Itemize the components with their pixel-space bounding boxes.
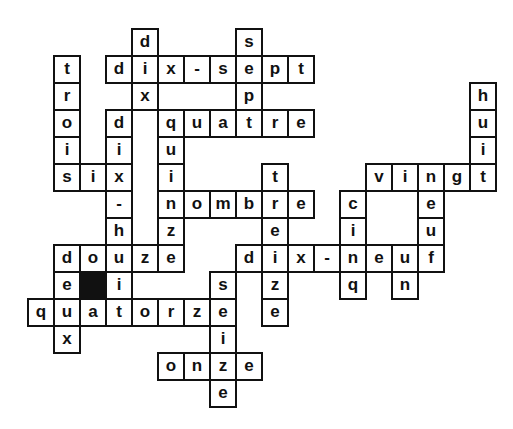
crossword-cell[interactable]: a xyxy=(209,109,237,138)
crossword-cell[interactable]: x xyxy=(131,82,159,111)
crossword-cell[interactable]: r xyxy=(261,190,289,219)
crossword-cell[interactable]: e xyxy=(53,271,81,300)
crossword-cell[interactable]: t xyxy=(287,55,315,84)
crossword-cell[interactable]: g xyxy=(443,163,471,192)
crossword-cell[interactable]: o xyxy=(157,352,185,381)
crossword-cell[interactable]: e xyxy=(209,379,237,408)
cell-letter: n xyxy=(400,276,410,293)
crossword-cell[interactable]: i xyxy=(157,163,185,192)
crossword-cell[interactable]: x xyxy=(157,55,185,84)
crossword-cell[interactable]: n xyxy=(157,190,185,219)
crossword-cell[interactable]: n xyxy=(417,163,445,192)
crossword-cell[interactable]: a xyxy=(79,298,107,327)
crossword-cell[interactable]: v xyxy=(365,163,393,192)
crossword-cell[interactable]: i xyxy=(209,325,237,354)
cell-letter: s xyxy=(218,276,227,293)
crossword-cell[interactable]: i xyxy=(131,55,159,84)
crossword-cell[interactable]: d xyxy=(105,109,133,138)
crossword-cell[interactable]: d xyxy=(105,55,133,84)
crossword-cell[interactable]: e xyxy=(287,190,315,219)
crossword-cell[interactable]: i xyxy=(105,271,133,300)
cell-letter: i xyxy=(117,276,122,293)
crossword-cell[interactable]: o xyxy=(53,109,81,138)
crossword-cell[interactable]: q xyxy=(27,298,55,327)
crossword-cell[interactable]: z xyxy=(261,271,289,300)
crossword-cell[interactable]: f xyxy=(417,244,445,273)
crossword-cell[interactable]: u xyxy=(105,244,133,273)
cell-letter: e xyxy=(166,249,175,266)
crossword-cell[interactable]: e xyxy=(157,244,185,273)
crossword-cell[interactable]: u xyxy=(391,244,419,273)
cell-letter: z xyxy=(271,276,280,293)
crossword-cell[interactable]: i xyxy=(261,244,289,273)
crossword-cell[interactable]: s xyxy=(53,163,81,192)
cell-letter: u xyxy=(166,141,176,158)
crossword-cell[interactable]: s xyxy=(209,271,237,300)
crossword-cell[interactable]: d xyxy=(235,244,263,273)
crossword-cell[interactable]: n xyxy=(339,244,367,273)
crossword-cell[interactable]: n xyxy=(391,271,419,300)
crossword-cell[interactable]: i xyxy=(391,163,419,192)
crossword-cell[interactable]: i xyxy=(53,136,81,165)
crossword-cell[interactable]: i xyxy=(79,163,107,192)
crossword-cell[interactable]: r xyxy=(157,298,185,327)
crossword-cell[interactable]: d xyxy=(53,244,81,273)
crossword-cell[interactable]: e xyxy=(235,352,263,381)
crossword-cell[interactable]: o xyxy=(79,244,107,273)
crossword-cell[interactable]: i xyxy=(105,136,133,165)
crossword-cell[interactable]: u xyxy=(469,109,497,138)
crossword-cell[interactable]: e xyxy=(261,298,289,327)
crossword-cell[interactable]: u xyxy=(53,298,81,327)
cell-letter: t xyxy=(64,60,70,77)
crossword-cell[interactable]: e xyxy=(235,55,263,84)
cell-letter: s xyxy=(218,60,227,77)
crossword-cell[interactable]: e xyxy=(261,217,289,246)
crossword-cell[interactable]: - xyxy=(313,244,341,273)
crossword-cell[interactable]: r xyxy=(53,82,81,111)
crossword-cell[interactable]: z xyxy=(131,244,159,273)
crossword-cell[interactable]: t xyxy=(235,109,263,138)
crossword-cell[interactable]: o xyxy=(131,298,159,327)
crossword-cell[interactable]: n xyxy=(183,352,211,381)
crossword-cell[interactable]: p xyxy=(261,55,289,84)
crossword-cell[interactable]: i xyxy=(469,136,497,165)
cell-letter: n xyxy=(166,195,176,212)
cell-letter: e xyxy=(374,249,383,266)
crossword-cell[interactable]: h xyxy=(105,217,133,246)
crossword-cell[interactable]: m xyxy=(209,190,237,219)
crossword-cell[interactable]: t xyxy=(105,298,133,327)
crossword-cell[interactable]: z xyxy=(209,352,237,381)
crossword-cell[interactable]: s xyxy=(235,28,263,57)
crossword-cell[interactable]: t xyxy=(469,163,497,192)
crossword-cell[interactable]: s xyxy=(209,55,237,84)
crossword-cell[interactable]: d xyxy=(131,28,159,57)
crossword-cell[interactable]: u xyxy=(157,136,185,165)
crossword-cell[interactable]: e xyxy=(417,190,445,219)
cell-letter: h xyxy=(114,222,124,239)
crossword-cell[interactable]: h xyxy=(469,82,497,111)
crossword-cell[interactable]: e xyxy=(287,109,315,138)
crossword-cell[interactable]: x xyxy=(287,244,315,273)
crossword-cell[interactable]: x xyxy=(105,163,133,192)
crossword-cell[interactable]: r xyxy=(261,109,289,138)
crossword-block-cell xyxy=(79,271,107,300)
crossword-cell[interactable]: p xyxy=(235,82,263,111)
crossword-cell[interactable]: z xyxy=(183,298,211,327)
crossword-cell[interactable]: q xyxy=(157,109,185,138)
crossword-cell[interactable]: c xyxy=(339,190,367,219)
crossword-cell[interactable]: t xyxy=(261,163,289,192)
crossword-cell[interactable]: x xyxy=(53,325,81,354)
crossword-cell[interactable]: - xyxy=(105,190,133,219)
crossword-cell[interactable]: o xyxy=(183,190,211,219)
crossword-cell[interactable]: u xyxy=(417,217,445,246)
crossword-cell[interactable]: - xyxy=(183,55,211,84)
crossword-cell[interactable]: q xyxy=(339,271,367,300)
crossword-cell[interactable]: e xyxy=(209,298,237,327)
crossword-cell[interactable]: e xyxy=(365,244,393,273)
cell-letter: s xyxy=(62,168,71,185)
crossword-cell[interactable]: b xyxy=(235,190,263,219)
crossword-cell[interactable]: z xyxy=(157,217,185,246)
crossword-cell[interactable]: i xyxy=(339,217,367,246)
crossword-cell[interactable]: t xyxy=(53,55,81,84)
crossword-cell[interactable]: u xyxy=(183,109,211,138)
